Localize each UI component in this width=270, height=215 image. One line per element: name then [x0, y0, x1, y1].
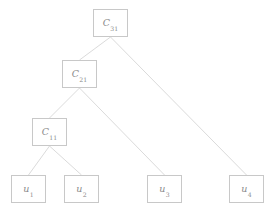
- tree-node-label-u3: u3: [159, 184, 169, 194]
- tree-node-label-C21: C21: [72, 69, 87, 79]
- tree-node-C11[interactable]: C11: [32, 118, 67, 146]
- tree-node-label-C11: C11: [42, 127, 57, 137]
- tree-node-subscript-u2: 2: [83, 191, 87, 198]
- tree-node-C21[interactable]: C21: [62, 60, 97, 88]
- tree-node-subscript-u1: 1: [30, 191, 34, 198]
- tree-node-label-u1: u1: [23, 184, 33, 194]
- tree-node-u2[interactable]: u2: [64, 175, 99, 203]
- tree-edge-C31-u4: [111, 37, 247, 175]
- tree-edge-C11-u1: [29, 146, 50, 175]
- tree-node-u3[interactable]: u3: [147, 175, 182, 203]
- cluster-tree-figure: C31C21C11u1u2u3u4: [0, 0, 270, 215]
- tree-edge-C21-C11: [50, 88, 80, 118]
- tree-node-subscript-u4: 4: [248, 191, 252, 198]
- tree-node-subscript-C31: 31: [110, 25, 118, 32]
- tree-node-label-u4: u4: [241, 184, 251, 194]
- tree-node-subscript-C21: 21: [79, 76, 87, 83]
- tree-node-subscript-u3: 3: [166, 191, 170, 198]
- tree-node-label-C31: C31: [103, 18, 118, 28]
- tree-node-u1[interactable]: u1: [11, 175, 46, 203]
- tree-node-label-u2: u2: [76, 184, 86, 194]
- tree-edge-C31-C21: [80, 37, 111, 60]
- tree-node-u4[interactable]: u4: [229, 175, 264, 203]
- tree-edge-C21-u3: [80, 88, 165, 175]
- tree-edge-C11-u2: [50, 146, 82, 175]
- tree-node-subscript-C11: 11: [49, 134, 57, 141]
- tree-node-C31[interactable]: C31: [93, 9, 128, 37]
